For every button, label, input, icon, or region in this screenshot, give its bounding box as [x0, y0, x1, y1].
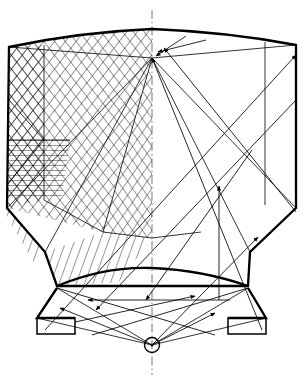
- ray-source-to-right-skirt: [152, 313, 215, 345]
- figure-root: [0, 0, 305, 381]
- source-point-dot: [150, 343, 153, 346]
- ray-diagram-canvas: [0, 0, 305, 381]
- ray-source-to-upper-right: [152, 237, 258, 345]
- ray-right-wall-to-apex: [164, 48, 296, 212]
- hatch-zone-group: [0, 20, 170, 295]
- right-foot-bracket: [228, 288, 266, 334]
